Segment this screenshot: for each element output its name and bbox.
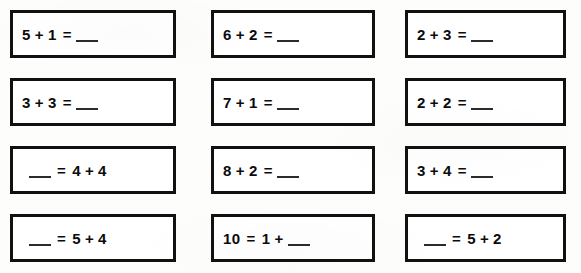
problem-box-r1c2[interactable]: 6 + 2 = xyxy=(211,10,375,58)
problem-box-r3c1[interactable]: = 4 + 4 xyxy=(10,146,176,194)
plus-operator: + xyxy=(236,94,245,111)
operand-left: 7 xyxy=(223,94,232,111)
equation-r3c2: 8 + 2 = xyxy=(214,162,301,179)
equation-r4c3: = 5 + 2 xyxy=(408,230,502,247)
answer-blank[interactable] xyxy=(471,95,493,108)
equation-r2c1: 3 + 3 = xyxy=(13,94,100,111)
plus-operator: + xyxy=(430,162,439,179)
plus-operator: + xyxy=(85,230,94,247)
equals-sign: = xyxy=(452,230,461,247)
operand-left: 5 xyxy=(467,230,476,247)
equals-sign: = xyxy=(57,162,66,179)
equation-r3c3: 3 + 4 = xyxy=(408,162,495,179)
operand-right: 1 xyxy=(249,94,258,111)
equals-sign: = xyxy=(63,26,72,43)
problem-box-r2c1[interactable]: 3 + 3 = xyxy=(10,78,176,126)
problem-box-r4c1[interactable]: = 5 + 4 xyxy=(10,214,176,262)
plus-operator: + xyxy=(480,230,489,247)
equals-sign: = xyxy=(458,26,467,43)
problem-box-r2c2[interactable]: 7 + 1 = xyxy=(211,78,375,126)
equals-sign: = xyxy=(458,94,467,111)
problem-grid: 5 + 1 = 6 + 2 = xyxy=(0,0,581,273)
operand-left: 3 xyxy=(417,162,426,179)
equals-sign: = xyxy=(57,230,66,247)
answer-blank[interactable] xyxy=(29,163,51,176)
equation-r2c2: 7 + 1 = xyxy=(214,94,301,111)
problem-box-r3c3[interactable]: 3 + 4 = xyxy=(405,146,566,194)
operand-left: 5 xyxy=(72,230,81,247)
plus-operator: + xyxy=(236,162,245,179)
plus-operator: + xyxy=(430,26,439,43)
plus-operator: + xyxy=(274,230,283,247)
answer-blank[interactable] xyxy=(76,27,98,40)
operand-right: 2 xyxy=(249,26,258,43)
answer-blank[interactable] xyxy=(29,231,51,244)
operand-left: 5 xyxy=(22,26,31,43)
operand-right: 3 xyxy=(443,26,452,43)
equals-sign: = xyxy=(63,94,72,111)
equation-r3c1: = 4 + 4 xyxy=(13,162,107,179)
answer-blank[interactable] xyxy=(277,95,299,108)
equation-r1c2: 6 + 2 = xyxy=(214,26,301,43)
operand-left: 6 xyxy=(223,26,232,43)
answer-blank[interactable] xyxy=(277,163,299,176)
plus-operator: + xyxy=(430,94,439,111)
equals-sign: = xyxy=(264,26,273,43)
equation-r1c1: 5 + 1 = xyxy=(13,26,100,43)
operand-right: 2 xyxy=(249,162,258,179)
equation-r1c3: 2 + 3 = xyxy=(408,26,495,43)
plus-operator: + xyxy=(85,162,94,179)
problem-box-r3c2[interactable]: 8 + 2 = xyxy=(211,146,375,194)
operand-left: 4 xyxy=(72,162,81,179)
problem-box-r4c2[interactable]: 10 = 1 + xyxy=(211,214,375,262)
worksheet-page: 5 + 1 = 6 + 2 = xyxy=(0,0,581,273)
answer-blank[interactable] xyxy=(471,163,493,176)
equation-r2c3: 2 + 2 = xyxy=(408,94,495,111)
operand-left: 2 xyxy=(417,26,426,43)
operand-right: 2 xyxy=(443,94,452,111)
answer-blank[interactable] xyxy=(277,27,299,40)
plus-operator: + xyxy=(35,94,44,111)
plus-operator: + xyxy=(35,26,44,43)
operand-right: 4 xyxy=(98,230,107,247)
problem-box-r1c1[interactable]: 5 + 1 = xyxy=(10,10,176,58)
sum-value: 10 xyxy=(223,230,241,247)
operand-left: 3 xyxy=(22,94,31,111)
equation-r4c1: = 5 + 4 xyxy=(13,230,107,247)
equals-sign: = xyxy=(264,162,273,179)
problem-box-r1c3[interactable]: 2 + 3 = xyxy=(405,10,566,58)
problem-box-r2c3[interactable]: 2 + 2 = xyxy=(405,78,566,126)
answer-blank[interactable] xyxy=(76,95,98,108)
equals-sign: = xyxy=(264,94,273,111)
operand-right: 1 xyxy=(48,26,57,43)
operand-left: 2 xyxy=(417,94,426,111)
answer-blank[interactable] xyxy=(424,231,446,244)
operand-right: 4 xyxy=(98,162,107,179)
equation-r4c2: 10 = 1 + xyxy=(214,230,312,247)
operand-left: 8 xyxy=(223,162,232,179)
operand-right: 3 xyxy=(48,94,57,111)
operand-right: 4 xyxy=(443,162,452,179)
equals-sign: = xyxy=(458,162,467,179)
answer-blank[interactable] xyxy=(471,27,493,40)
equals-sign: = xyxy=(247,230,256,247)
answer-blank[interactable] xyxy=(288,231,310,244)
operand-right: 2 xyxy=(493,230,502,247)
problem-box-r4c3[interactable]: = 5 + 2 xyxy=(405,214,566,262)
plus-operator: + xyxy=(236,26,245,43)
operand-right: 1 xyxy=(262,230,271,247)
